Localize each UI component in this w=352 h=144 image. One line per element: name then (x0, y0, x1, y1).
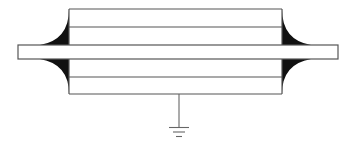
left-upper-flare (40, 9, 69, 45)
right-upper-flare (282, 9, 311, 45)
coaxial-structure-diagram (0, 0, 352, 144)
diagram-canvas (0, 0, 352, 144)
ground-connection (169, 94, 189, 137)
center-conductor-bar (18, 45, 338, 59)
left-lower-flare (40, 59, 69, 94)
right-lower-flare (282, 59, 311, 94)
